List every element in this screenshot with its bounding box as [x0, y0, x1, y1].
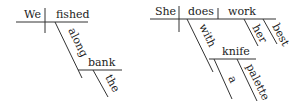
subject-word: She — [155, 5, 176, 18]
sentence-diagrams: We fished along bank the She does work h… — [0, 0, 298, 103]
prep-object-word: bank — [88, 56, 116, 69]
article-word: the — [102, 72, 122, 94]
prep-object-word: knife — [222, 45, 250, 58]
diagram-she-does-work: She does work her best with knife a pale… — [150, 5, 292, 102]
verb-word: fished — [56, 8, 90, 21]
modifier-word-best: best — [269, 21, 292, 48]
verb-word: does — [188, 5, 214, 18]
modifier-word-a: a — [225, 74, 240, 86]
preposition-word: along — [65, 26, 90, 59]
subject-word: We — [24, 8, 41, 21]
diagram-we-fished: We fished along bank the — [16, 8, 122, 97]
object-word: work — [228, 5, 256, 18]
